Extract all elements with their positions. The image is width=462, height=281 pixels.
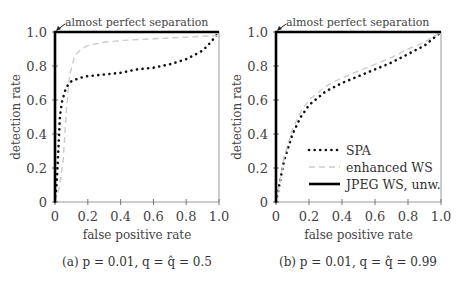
plot-frame — [55, 32, 219, 202]
y-axis-label: detection rate — [230, 74, 244, 160]
legend: SPAenhanced WSJPEG WS, unw. — [309, 143, 441, 192]
y-tick-label: 1.0 — [247, 25, 268, 40]
x-tick-label: 0.8 — [176, 209, 197, 224]
legend-entry: JPEG WS, unw. — [344, 177, 441, 192]
x-tick-label: 0 — [51, 209, 59, 224]
y-tick-label: 0.4 — [247, 127, 268, 142]
y-tick-label: 0.4 — [26, 127, 47, 142]
x-tick-label: 0.2 — [299, 209, 320, 224]
annotation-text: almost perfect separation — [65, 16, 208, 29]
y-tick-label: 0.2 — [26, 161, 47, 176]
y-tick-label: 1.0 — [26, 25, 47, 40]
x-tick-label: 0.4 — [332, 209, 353, 224]
x-axis-label: false positive rate — [83, 228, 192, 242]
y-axis-label: detection rate — [9, 74, 23, 160]
y-tick-label: 0.8 — [247, 59, 268, 74]
roc-figure: 00.20.40.60.81.000.20.40.60.81.0false po… — [0, 0, 462, 281]
roc-panel-a: 00.20.40.60.81.000.20.40.60.81.0false po… — [9, 16, 229, 269]
y-tick-label: 0.6 — [26, 93, 47, 108]
legend-entry: SPA — [346, 143, 372, 158]
x-tick-label: 0.6 — [143, 209, 164, 224]
y-tick-label: 0.8 — [26, 59, 47, 74]
x-tick-label: 1.0 — [209, 209, 230, 224]
x-tick-label: 0.4 — [110, 209, 131, 224]
x-tick-label: 0 — [272, 209, 280, 224]
x-tick-label: 0.6 — [365, 209, 386, 224]
panel-caption: (b) p = 0.01, q = q̂ = 0.99 — [279, 255, 437, 269]
roc-panel-b: 00.20.40.60.81.000.20.40.60.81.0false po… — [230, 16, 451, 269]
x-tick-label: 1.0 — [431, 209, 452, 224]
y-tick-label: 0.6 — [247, 93, 268, 108]
y-tick-label: 0 — [260, 195, 268, 210]
annotation-text: almost perfect separation — [286, 16, 429, 29]
x-tick-label: 0.2 — [77, 209, 98, 224]
series-spa — [55, 32, 219, 202]
legend-entry: enhanced WS — [346, 160, 433, 175]
series-jpeg-ws-unw — [55, 32, 219, 202]
series-enhanced-ws — [55, 35, 219, 202]
y-tick-label: 0 — [39, 195, 47, 210]
x-tick-label: 0.8 — [398, 209, 419, 224]
x-axis-label: false positive rate — [304, 228, 413, 242]
y-tick-label: 0.2 — [247, 161, 268, 176]
panel-caption: (a) p = 0.01, q = q̂ = 0.5 — [62, 255, 212, 269]
